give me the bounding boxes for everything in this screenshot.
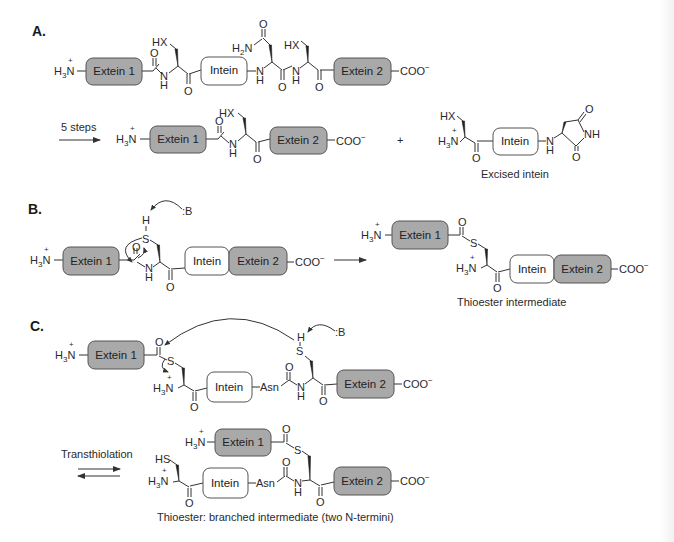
panel-b: B. :B H S H3N + Extein 1 O N H: [28, 201, 649, 308]
oxygen: O: [184, 85, 193, 97]
oxygen: O: [190, 401, 199, 413]
n-terminus-label: H3N: [30, 254, 50, 269]
charge-plus: +: [44, 245, 49, 254]
oxygen: O: [185, 497, 194, 509]
c-terminus-label: COO−: [295, 254, 325, 268]
sulfur: S: [296, 345, 303, 357]
extein-2-label: Extein 2: [344, 378, 386, 390]
n-terminus-label: H3N: [456, 262, 476, 277]
extein-2-label: Extein 2: [561, 263, 603, 275]
hx-group: HX: [440, 110, 456, 122]
extein-2-label: Extein 2: [237, 255, 279, 267]
oxygen: O: [282, 423, 291, 435]
oxygen: O: [259, 18, 268, 30]
panel-c-branched-intermediate: H3N + Extein 1 O S HS H3N + O Intein: [148, 423, 430, 523]
c-terminus-label: COO−: [400, 473, 430, 487]
extein-1-label: Extein 1: [157, 133, 199, 145]
charge-plus: +: [69, 340, 74, 349]
hx-group: HX: [284, 39, 300, 51]
n-terminus-label: H3N: [55, 349, 75, 364]
oxygen: O: [585, 103, 594, 115]
panel-b-thioester: H3N + Extein 1 O S H3N + O Intein Extein…: [361, 216, 649, 308]
intein-label: Intein: [211, 477, 239, 489]
extein-2-label: Extein 2: [341, 65, 383, 77]
thioester-intermediate-caption: Thioester intermediate: [457, 296, 566, 308]
charge-plus: +: [452, 126, 457, 135]
hydrogen: H: [546, 144, 554, 156]
n-terminus-label: H3N: [54, 65, 74, 80]
oxygen: O: [458, 216, 467, 228]
intein-label: Intein: [215, 381, 243, 393]
hs-group: HS: [155, 453, 170, 465]
n-terminus-label: H3N: [148, 475, 168, 490]
hx-group: HX: [219, 107, 235, 119]
excised-intein-caption: Excised intein: [481, 168, 549, 180]
c-terminus-label: COO−: [400, 63, 430, 77]
oxygen: O: [253, 153, 262, 165]
charge-plus: +: [167, 373, 172, 382]
oxygen: O: [316, 496, 325, 508]
intein-label: Intein: [501, 135, 529, 147]
oxygen: O: [319, 395, 328, 407]
extein-1-label: Extein 1: [93, 65, 135, 77]
extein-2-label: Extein 2: [277, 134, 319, 146]
n-terminus-label: H3N: [185, 436, 205, 451]
charge-plus: +: [199, 427, 204, 436]
intein-splicing-diagram: A. H3N + Extein 1 O N H HX O I: [0, 0, 674, 542]
oxygen: O: [315, 81, 324, 93]
charge-plus: +: [68, 56, 73, 65]
base-label: :B: [182, 205, 192, 217]
hydrogen: H: [142, 214, 150, 226]
sulfur: S: [142, 233, 149, 245]
panel-c-label: C.: [30, 318, 44, 334]
intein-label: Intein: [210, 64, 238, 76]
five-steps-label: 5 steps: [61, 121, 97, 133]
base-label: :B: [335, 326, 345, 338]
curved-arrow-transthiolation: [165, 319, 294, 345]
oxygen: O: [285, 361, 294, 373]
oxygen: O: [278, 81, 287, 93]
extein-1-label: Extein 1: [222, 436, 264, 448]
transthiolation-label: Transthiolation: [61, 448, 133, 460]
sulfur: S: [294, 444, 301, 456]
oxygen: O: [282, 456, 291, 468]
sulfur: S: [167, 355, 174, 367]
sulfur: S: [470, 237, 477, 249]
oxygen: O: [572, 151, 581, 163]
panel-c: C. H3N + Extein 1 O S H3N + O Intein: [30, 318, 433, 523]
extein-1-label: Extein 1: [95, 349, 137, 361]
oxygen: O: [493, 282, 502, 294]
n-terminus-label: H3N: [153, 382, 173, 397]
c-terminus-label: COO−: [403, 376, 433, 390]
hydrogen: H: [256, 74, 264, 86]
panel-a-products: 5 steps H3N + Extein 1 O N H HX O Extein…: [59, 103, 600, 180]
panel-a-precursor: H3N + Extein 1 O N H HX O Intein N: [54, 18, 430, 97]
panel-a: A. H3N + Extein 1 O N H HX O I: [32, 18, 600, 180]
oxygen: O: [472, 152, 481, 164]
n-terminus-label: H3N: [116, 133, 136, 148]
panel-c-thioester: H3N + Extein 1 O S H3N + O Intein Asn: [55, 319, 433, 413]
imide-nh: NH: [584, 128, 600, 140]
extein-2-label: Extein 2: [341, 475, 383, 487]
asn-label: Asn: [256, 477, 275, 489]
n-terminus-label: H3N: [361, 229, 381, 244]
charge-plus: +: [375, 220, 380, 229]
intein-label: Intein: [518, 263, 546, 275]
hydrogen: H: [294, 486, 302, 498]
asn-label: Asn: [260, 381, 279, 393]
oxygen: O: [155, 336, 164, 348]
panel-b-label: B.: [28, 201, 42, 217]
hydrogen: H: [297, 390, 305, 402]
hydrogen: H: [297, 331, 305, 343]
curved-arrow-base: [151, 201, 182, 210]
charge-plus: +: [162, 466, 167, 475]
oxygen: O: [132, 241, 141, 253]
oxygen: O: [150, 47, 159, 59]
excised-intein: HX H3N + O Intein N H: [438, 103, 600, 180]
hx-group: HX: [152, 36, 168, 48]
plus-sign: +: [397, 134, 403, 146]
c-terminus-label: COO−: [336, 133, 366, 147]
intein-label: Intein: [193, 255, 221, 267]
curved-arrow-base: [308, 325, 335, 332]
charge-plus: +: [130, 124, 135, 133]
